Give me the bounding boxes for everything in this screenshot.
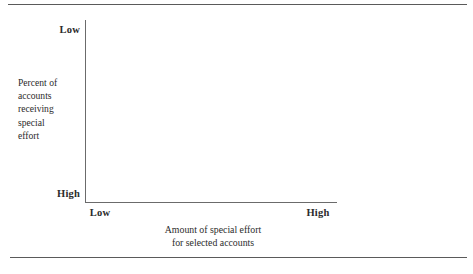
x-axis-tick-label-low: Low [70, 207, 130, 219]
y-axis-caption: Percent of accounts receiving special ef… [18, 76, 82, 142]
x-axis-caption: Amount of special effort for selected ac… [123, 223, 303, 250]
figure-container: Low High Percent of accounts receiving s… [0, 0, 473, 274]
x-axis-tick-label-high: High [288, 207, 348, 219]
top-horizontal-rule [8, 4, 467, 5]
plot-area [87, 21, 337, 201]
y-axis-tick-label-high: High [14, 188, 80, 200]
y-axis-tick-label-low: Low [14, 24, 80, 36]
x-axis-line [85, 202, 337, 203]
y-axis-line [85, 20, 86, 203]
bottom-horizontal-rule [10, 257, 467, 258]
